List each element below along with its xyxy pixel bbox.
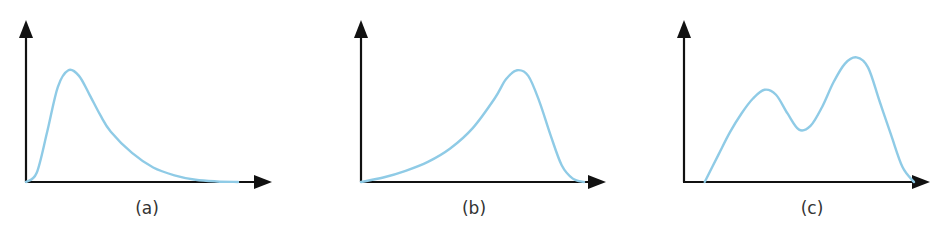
distribution-curve-a: [26, 70, 238, 182]
panel-c: (c): [677, 20, 930, 218]
distribution-curve-c: [705, 57, 914, 182]
y-axis-arrow-icon: [354, 20, 368, 38]
x-axis-arrow-icon: [254, 175, 272, 189]
panel-b: (b): [354, 20, 606, 218]
distribution-curve-b: [361, 70, 584, 182]
y-axis-arrow-icon: [677, 20, 691, 38]
caption-a: (a): [135, 198, 159, 218]
x-axis-arrow-icon: [588, 175, 606, 189]
panel-a: (a): [19, 20, 272, 218]
caption-c: (c): [801, 198, 824, 218]
distribution-shapes-figure: (a) (b) (c): [0, 0, 934, 228]
caption-b: (b): [462, 198, 486, 218]
y-axis-arrow-icon: [19, 20, 33, 38]
